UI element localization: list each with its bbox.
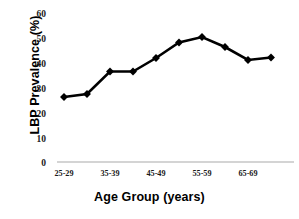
chart-figure: LBP Prevalence (%) 60 50 40 30 20 10 0 2… [0,0,299,219]
data-point-marker [267,54,275,62]
x-axis-title: Age Group (years) [0,190,299,204]
x-tick-label: 65-69 [220,170,276,178]
data-point-marker [60,93,68,101]
series-markers [60,33,275,101]
data-point-marker [198,33,206,41]
series-line-lbp-prevalence [64,37,271,97]
line-chart-plot [0,0,299,219]
